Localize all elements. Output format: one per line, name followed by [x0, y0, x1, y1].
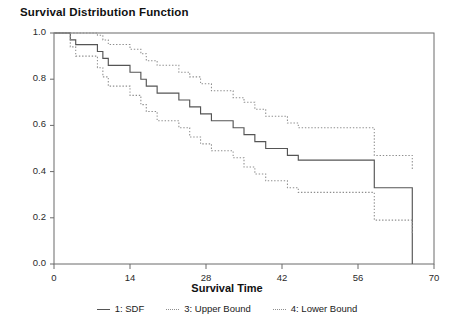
legend-label: 3: Upper Bound — [184, 303, 251, 314]
y-tick-label: 0.8 — [12, 72, 46, 83]
series-line — [54, 33, 412, 264]
y-tick-label: 0.4 — [12, 165, 46, 176]
legend-line-dotted-icon — [166, 305, 179, 313]
chart-legend: 1: SDF3: Upper Bound4: Lower Bound — [0, 303, 454, 314]
ticks-layer — [50, 33, 434, 269]
x-axis-title: Survival Time — [0, 282, 454, 294]
legend-entry[interactable]: 4: Lower Bound — [273, 303, 358, 314]
axes-layer — [54, 33, 434, 264]
legend-line-solid-icon — [97, 305, 110, 313]
legend-label: 1: SDF — [115, 303, 145, 314]
legend-entry[interactable]: 3: Upper Bound — [166, 303, 251, 314]
plot-frame — [54, 33, 434, 264]
series-layer — [54, 33, 412, 264]
y-tick-label: 1.0 — [12, 26, 46, 37]
y-tick-label: 0.0 — [12, 257, 46, 268]
legend-line-dotted-icon — [273, 305, 286, 313]
legend-entry[interactable]: 1: SDF — [97, 303, 145, 314]
survival-chart: Survival Distribution Function 0.00.20.4… — [0, 0, 454, 331]
y-tick-label: 0.2 — [12, 211, 46, 222]
series-line — [54, 33, 412, 169]
y-tick-label: 0.6 — [12, 118, 46, 129]
legend-label: 4: Lower Bound — [291, 303, 358, 314]
